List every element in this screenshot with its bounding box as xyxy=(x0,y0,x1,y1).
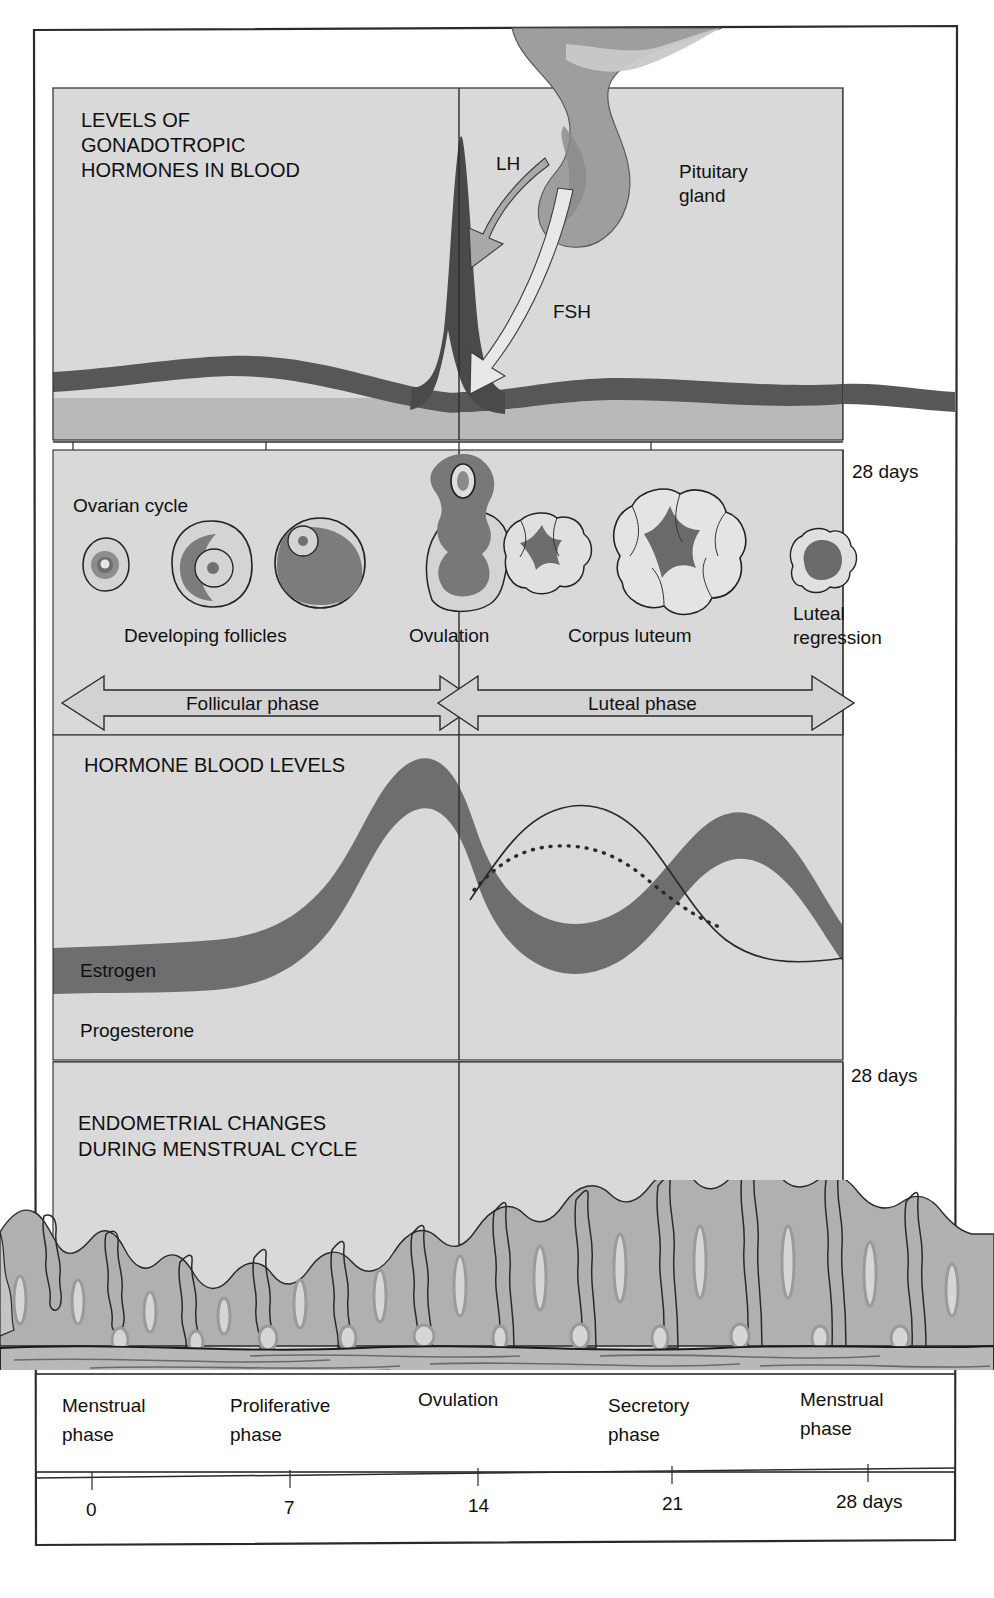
luteal-phase-label: Luteal phase xyxy=(588,693,697,714)
luteal-regression-illustration xyxy=(790,529,856,593)
axis-mid-end-label: 28 days xyxy=(851,1065,918,1086)
phase-cell-4-line2: phase xyxy=(800,1418,852,1439)
pituitary-label-line1: Pituitary xyxy=(679,161,748,182)
axis-bottom-end-label: 28 days xyxy=(836,1491,903,1512)
developing-follicles-label: Developing follicles xyxy=(124,625,287,646)
panel4-title-line1: ENDOMETRIAL CHANGES xyxy=(78,1112,326,1134)
estrogen-label: Estrogen xyxy=(80,960,156,981)
panel1-title-line1: LEVELS OF xyxy=(81,109,190,131)
panel1-title-line2: GONADOTROPIC xyxy=(81,134,245,156)
phase-label-table: Menstrual phase Proliferative phase Ovul… xyxy=(36,1374,955,1472)
corpus-luteum-label: Corpus luteum xyxy=(568,625,692,646)
axis-top-end-label: 28 days xyxy=(852,461,919,482)
ovulation-label: Ovulation xyxy=(409,625,489,646)
luteal-regression-line1: Luteal xyxy=(793,603,845,624)
luteal-regression-line2: regression xyxy=(793,627,882,648)
phase-cell-1-line1: Proliferative xyxy=(230,1395,330,1416)
panel4-title-line2: DURING MENSTRUAL CYCLE xyxy=(78,1138,357,1160)
follicle-primordial xyxy=(83,538,129,591)
phase-cell-0-line1: Menstrual xyxy=(62,1395,145,1416)
fsh-label: FSH xyxy=(553,301,591,322)
axis-bottom-tick-0: 0 xyxy=(86,1499,97,1520)
phase-cell-0-line2: phase xyxy=(62,1424,114,1445)
pituitary-label-line2: gland xyxy=(679,185,726,206)
panel3-title: HORMONE BLOOD LEVELS xyxy=(84,754,345,776)
corpus-luteum-early xyxy=(504,513,592,594)
progesterone-label: Progesterone xyxy=(80,1020,194,1041)
panel-ovarian-cycle: Ovarian cycle xyxy=(53,450,882,735)
axis-bottom-tick-14: 14 xyxy=(468,1495,490,1516)
panel-hormone-blood-levels: HORMONE BLOOD LEVELS Estrogen Progestero… xyxy=(53,735,920,1060)
phase-cell-3-line1: Secretory xyxy=(608,1395,690,1416)
ovarian-cycle-label: Ovarian cycle xyxy=(73,495,188,516)
follicular-phase-label: Follicular phase xyxy=(186,693,319,714)
axis-bottom-tick-7: 7 xyxy=(284,1497,295,1518)
lh-label: LH xyxy=(496,153,520,174)
panel-gonadotropic-hormones: LEVELS OF GONADOTROPIC HORMONES IN BLOOD xyxy=(53,88,955,442)
phase-cell-3-line2: phase xyxy=(608,1424,660,1445)
axis-bottom-tick-21: 21 xyxy=(662,1493,683,1514)
follicle-graafian xyxy=(275,518,365,608)
phase-cell-1-line2: phase xyxy=(230,1424,282,1445)
phase-cell-2-line1: Ovulation xyxy=(418,1389,498,1410)
figure-root: LEVELS OF GONADOTROPIC HORMONES IN BLOOD… xyxy=(0,0,994,1598)
panel1-title-line3: HORMONES IN BLOOD xyxy=(81,159,300,181)
phase-cell-4-line1: Menstrual xyxy=(800,1389,883,1410)
follicle-primary xyxy=(172,521,252,607)
